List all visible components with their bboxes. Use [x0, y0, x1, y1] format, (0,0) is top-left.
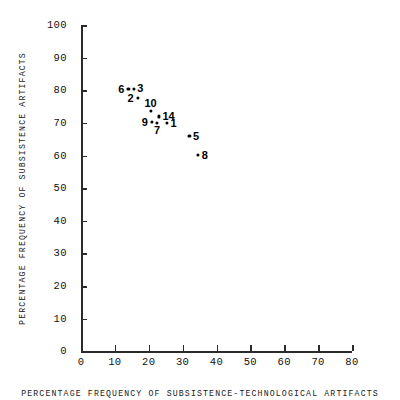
x-tick-label: 70 — [311, 356, 324, 368]
data-point — [136, 97, 139, 100]
data-point-label: 3 — [137, 83, 143, 94]
y-tick-mark — [81, 253, 87, 255]
y-tick-mark — [81, 90, 87, 92]
y-tick-mark — [81, 58, 87, 60]
y-tick-label: 70 — [54, 117, 67, 129]
x-tick-mark — [183, 345, 185, 351]
data-point-label: 8 — [202, 150, 208, 161]
y-tick-label: 30 — [54, 247, 67, 259]
y-tick-label: 10 — [54, 313, 67, 325]
x-tick-label: 80 — [345, 356, 358, 368]
data-point-label: 5 — [193, 131, 199, 142]
x-tick-mark — [149, 345, 151, 351]
data-point — [197, 154, 200, 157]
x-tick-label: 20 — [142, 356, 155, 368]
y-tick-label: 100 — [47, 19, 67, 31]
data-point-label: 6 — [118, 84, 124, 95]
x-tick-mark — [318, 345, 320, 351]
data-point — [127, 88, 130, 91]
x-tick-label: 40 — [210, 356, 223, 368]
data-point-label: 7 — [154, 125, 160, 136]
y-tick-mark — [81, 221, 87, 223]
data-point — [149, 110, 152, 113]
y-axis-tick-labels: 0102030405060708090100 — [0, 0, 74, 328]
data-point-label: 9 — [142, 117, 148, 128]
x-tick-mark — [217, 345, 219, 351]
y-tick-mark — [81, 319, 87, 321]
x-tick-mark — [81, 345, 83, 351]
y-tick-label: 40 — [54, 215, 67, 227]
data-point-label: 1 — [171, 118, 177, 129]
x-tick-mark — [250, 345, 252, 351]
x-tick-mark — [284, 345, 286, 351]
x-tick-mark — [352, 345, 354, 351]
y-axis-title: PERCENTAGE FREQUENCY OF SUBSISTENCE ARTI… — [18, 29, 27, 349]
data-point — [188, 135, 191, 138]
x-tick-label: 50 — [244, 356, 257, 368]
y-tick-label: 50 — [54, 182, 67, 194]
data-point — [132, 87, 135, 90]
y-tick-mark — [81, 156, 87, 158]
data-point — [165, 122, 168, 125]
plot-area: 632101497158 — [81, 25, 352, 353]
x-axis-tick-labels: 01020304050607080 — [81, 356, 352, 372]
y-tick-mark — [81, 188, 87, 190]
y-tick-mark — [81, 123, 87, 125]
x-tick-label: 10 — [108, 356, 121, 368]
data-point-label: 10 — [144, 98, 156, 109]
x-tick-label: 60 — [278, 356, 291, 368]
x-axis-title: PERCENTAGE FREQUENCY OF SUBSISTENCE-TECH… — [0, 389, 400, 398]
data-point-label: 2 — [128, 93, 134, 104]
scatter-plot-figure: 632101497158 0102030405060708090100 0102… — [0, 0, 400, 400]
x-tick-label: 0 — [78, 356, 85, 368]
y-tick-mark — [81, 286, 87, 288]
y-tick-label: 90 — [54, 52, 67, 64]
x-axis-line — [81, 351, 352, 353]
y-tick-label: 20 — [54, 280, 67, 292]
data-point — [157, 115, 160, 118]
y-tick-label: 80 — [54, 84, 67, 96]
x-tick-label: 30 — [176, 356, 189, 368]
y-tick-label: 0 — [60, 345, 67, 357]
y-tick-mark — [81, 25, 87, 27]
x-tick-mark — [115, 345, 117, 351]
y-tick-label: 60 — [54, 150, 67, 162]
y-tick-mark — [81, 351, 87, 353]
